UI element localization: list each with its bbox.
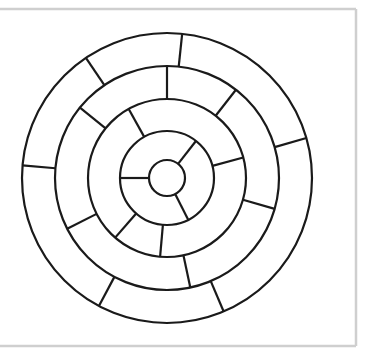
ring-3-divider-6 (67, 214, 96, 229)
image-frame (0, 9, 356, 346)
ring-2-divider-3 (160, 225, 163, 257)
ring-4-divider-6 (99, 277, 114, 306)
ring-2-divider-2 (212, 158, 243, 166)
ring-1-divider-2 (175, 194, 188, 220)
ring-4-divider-1 (23, 165, 56, 168)
ring-4-divider-4 (275, 138, 307, 147)
ring-diagram (0, 0, 374, 355)
ring-4-divider-2 (86, 58, 104, 85)
ring-4-divider-3 (179, 34, 182, 67)
ring-2-divider-1 (129, 109, 145, 137)
circle-3 (88, 99, 246, 257)
ring-4-divider-5 (211, 281, 224, 311)
ring-1-divider-1 (178, 141, 196, 164)
ring-3-divider-3 (216, 90, 236, 116)
ring-3-divider-4 (243, 200, 275, 209)
ring-3-divider-1 (80, 108, 106, 129)
ring-3-divider-5 (183, 255, 190, 287)
ring-2-divider-4 (115, 213, 136, 237)
circle-1 (149, 160, 185, 196)
